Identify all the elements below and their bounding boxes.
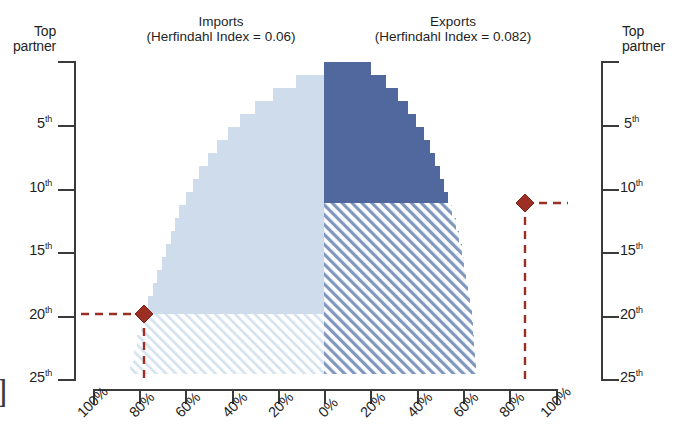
y-tick-right-top bbox=[601, 61, 619, 63]
y-label-left-15: 15th bbox=[8, 241, 52, 258]
y-label-left-25-value: 25 bbox=[29, 369, 45, 385]
y-label-left-25: 25th bbox=[8, 368, 52, 385]
y-label-right-20: 20th bbox=[620, 305, 643, 322]
y-axis-right-title: Top partner bbox=[622, 24, 665, 53]
x-label-center-0: 0% bbox=[315, 395, 341, 421]
y-label-right-20-value: 20 bbox=[620, 306, 636, 322]
exports-area bbox=[324, 55, 556, 380]
cropped-edge-glyph: ] bbox=[0, 372, 7, 410]
y-tick-right-5 bbox=[601, 125, 619, 127]
plot-area bbox=[93, 55, 556, 380]
y-label-right-25: 25th bbox=[620, 368, 643, 385]
y-label-right-10-value: 10 bbox=[620, 179, 636, 195]
x-label-left-80: 80% bbox=[126, 389, 157, 420]
y-tick-right-10 bbox=[601, 189, 619, 191]
x-label-left-20: 20% bbox=[265, 389, 296, 420]
y-label-left-10-suffix: th bbox=[45, 178, 52, 188]
x-label-right-20: 20% bbox=[357, 389, 388, 420]
y-tick-left-5 bbox=[58, 125, 76, 127]
y-label-right-15-value: 15 bbox=[620, 242, 636, 258]
y-tick-left-top bbox=[58, 61, 76, 63]
y-tick-left-10 bbox=[58, 189, 76, 191]
imports-title-subtitle: (Herfindahl Index = 0.06) bbox=[106, 29, 336, 44]
y-label-right-15-suffix: th bbox=[636, 241, 643, 251]
x-label-left-60: 60% bbox=[172, 389, 203, 420]
chart-canvas: Imports (Herfindahl Index = 0.06) Export… bbox=[0, 0, 676, 444]
y-label-left-20-value: 20 bbox=[29, 306, 45, 322]
exports-marker-group bbox=[516, 194, 568, 380]
y-label-left-10: 10th bbox=[8, 178, 52, 195]
y-label-right-25-value: 25 bbox=[620, 369, 636, 385]
y-label-right-5: 5th bbox=[624, 114, 639, 131]
y-label-right-20-suffix: th bbox=[636, 305, 643, 315]
y-label-left-15-suffix: th bbox=[45, 241, 52, 251]
x-label-right-40: 40% bbox=[404, 389, 435, 420]
x-label-right-80: 80% bbox=[496, 389, 527, 420]
exports-title-name: Exports bbox=[330, 14, 576, 29]
x-label-left-40: 40% bbox=[219, 389, 250, 420]
y-axis-right-title-line2: partner bbox=[622, 38, 665, 54]
y-label-right-5-suffix: th bbox=[632, 114, 639, 124]
x-label-left-100: 100% bbox=[74, 384, 111, 421]
y-label-left-20-suffix: th bbox=[45, 305, 52, 315]
y-axis-left-title-line2: partner bbox=[13, 38, 56, 54]
y-label-left-5-value: 5 bbox=[37, 115, 45, 131]
y-label-left-25-suffix: th bbox=[45, 368, 52, 378]
y-label-right-10: 10th bbox=[620, 178, 643, 195]
x-label-right-60: 60% bbox=[450, 389, 481, 420]
imports-area bbox=[93, 55, 324, 380]
exports-marker-diamond bbox=[516, 194, 534, 212]
y-label-left-5-suffix: th bbox=[45, 114, 52, 124]
y-tick-right-15 bbox=[601, 252, 619, 254]
y-tick-right-20 bbox=[601, 316, 619, 318]
y-label-right-15: 15th bbox=[620, 241, 643, 258]
y-axis-left-line bbox=[74, 61, 76, 381]
y-label-right-5-value: 5 bbox=[624, 115, 632, 131]
exports-title-subtitle: (Herfindahl Index = 0.082) bbox=[330, 29, 576, 44]
y-axis-right-line bbox=[601, 61, 603, 381]
y-tick-right-25 bbox=[601, 379, 619, 381]
imports-title: Imports (Herfindahl Index = 0.06) bbox=[106, 14, 336, 44]
y-label-right-25-suffix: th bbox=[636, 368, 643, 378]
exports-title: Exports (Herfindahl Index = 0.082) bbox=[330, 14, 576, 44]
y-tick-left-20 bbox=[58, 316, 76, 318]
y-label-left-20: 20th bbox=[8, 305, 52, 322]
y-label-left-10-value: 10 bbox=[29, 179, 45, 195]
y-tick-left-15 bbox=[58, 252, 76, 254]
y-label-right-10-suffix: th bbox=[636, 178, 643, 188]
y-label-left-15-value: 15 bbox=[29, 242, 45, 258]
y-label-left-5: 5th bbox=[8, 114, 52, 131]
y-axis-left-title: Top partner bbox=[6, 24, 56, 53]
y-tick-left-25 bbox=[58, 379, 76, 381]
imports-title-name: Imports bbox=[106, 14, 336, 29]
